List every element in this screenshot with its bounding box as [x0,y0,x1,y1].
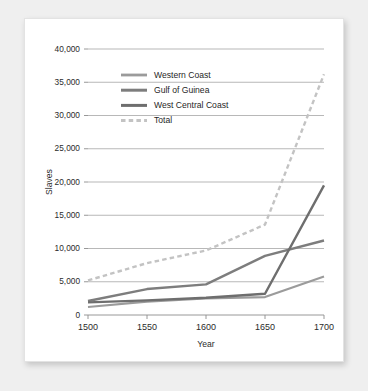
legend-label-western-coast: Western Coast [154,70,211,80]
x-axis-title: Year [197,339,215,349]
y-tick-label: 20,000 [55,177,81,187]
x-tick-label: 1700 [314,322,334,332]
y-tick-label: 25,000 [55,143,81,153]
y-tick-label: 5,000 [59,276,80,286]
y-tick-label: 35,000 [55,77,81,87]
y-axis-title: Slaves [44,169,54,195]
chart-legend: Western CoastGulf of GuineaWest Central … [121,70,229,126]
y-tick-label: 30,000 [55,110,81,120]
chart-card: 05,00010,00015,00020,00025,00030,00035,0… [24,18,344,362]
x-tick-label: 1550 [137,322,157,332]
legend-label-total: Total [154,115,172,125]
line-chart: 05,00010,00015,00020,00025,00030,00035,0… [25,19,343,361]
x-tick-label: 1600 [196,322,216,332]
x-tick-label: 1650 [255,322,275,332]
y-tick-label: 15,000 [55,210,81,220]
legend-label-gulf-of-guinea: Gulf of Guinea [154,85,210,95]
x-axis: 15001550160016501700 [78,315,334,332]
y-tick-label: 40,000 [55,44,81,54]
chart-svg: 05,00010,00015,00020,00025,00030,00035,0… [25,19,345,363]
y-tick-label: 10,000 [55,243,81,253]
x-tick-label: 1500 [78,322,98,332]
y-tick-label: 0 [75,310,80,320]
series-line-western-coast [88,276,324,307]
legend-label-west-central-coast: West Central Coast [154,100,229,110]
